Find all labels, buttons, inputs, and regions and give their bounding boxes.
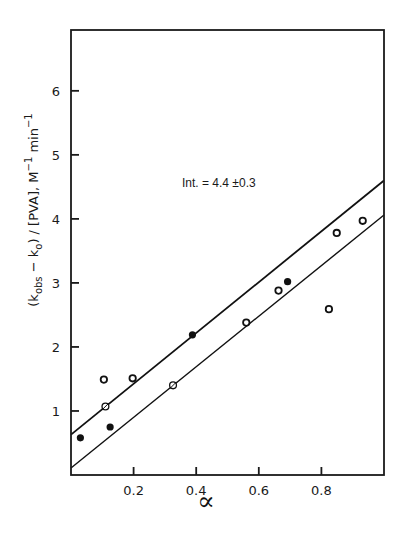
open-point	[275, 287, 281, 293]
y-tick-label: 6	[52, 84, 60, 99]
x-axis-label: ∝	[197, 486, 215, 516]
open-point	[360, 218, 366, 224]
x-tick-label: 0.6	[248, 483, 269, 498]
upper-bound-line	[71, 180, 384, 434]
open-point	[334, 230, 340, 236]
filled-point	[107, 423, 114, 430]
fit-lines	[71, 180, 384, 467]
y-tick-label: 2	[52, 340, 60, 355]
slashed-point	[170, 382, 177, 389]
open-point	[129, 375, 135, 381]
open-point	[326, 306, 332, 312]
y-axis-ticks: 123456	[52, 84, 79, 419]
lower-bound-line	[71, 215, 384, 468]
slashed-point	[102, 403, 109, 410]
y-axis-label: (kobs − ko) / [PVA], M−1 min−1	[23, 113, 44, 306]
filled-point	[189, 331, 196, 338]
open-point	[243, 319, 249, 325]
intercept-annotation: Int. = 4.4 ±0.3	[182, 176, 256, 190]
x-tick-label: 0.2	[123, 483, 144, 498]
y-tick-label: 5	[52, 148, 60, 163]
y-tick-label: 1	[52, 404, 60, 419]
y-tick-label: 4	[52, 212, 60, 227]
chart: 0.20.40.60.8 123456 Int. = 4.4 ±0.3 ∝ (k…	[0, 0, 403, 533]
data-points	[77, 218, 366, 442]
x-axis-ticks: 0.20.40.60.8	[123, 467, 331, 498]
x-tick-label: 0.8	[311, 483, 332, 498]
filled-point	[77, 434, 84, 441]
open-point	[101, 376, 107, 382]
y-tick-label: 3	[52, 276, 60, 291]
filled-point	[284, 278, 291, 285]
